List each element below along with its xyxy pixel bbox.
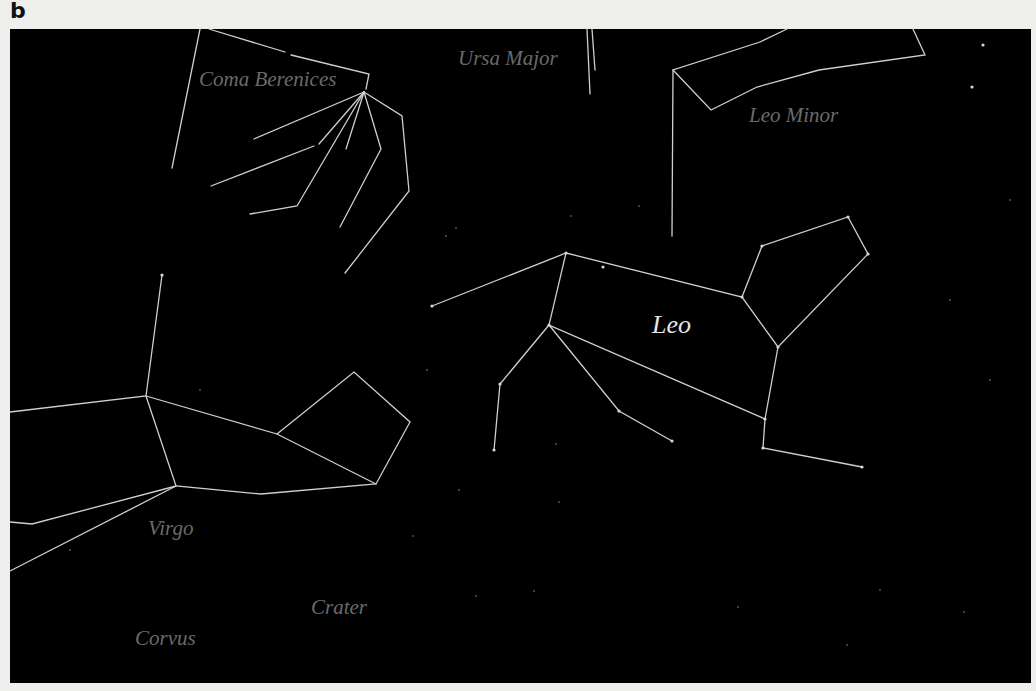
label-crater: Crater bbox=[311, 595, 368, 619]
faint-star bbox=[475, 595, 477, 597]
star bbox=[860, 465, 863, 468]
faint-star bbox=[412, 535, 414, 537]
faint-star bbox=[558, 501, 560, 503]
star bbox=[160, 273, 163, 276]
faint-star bbox=[555, 443, 557, 445]
faint-star bbox=[879, 589, 881, 591]
label-ursa-major: Ursa Major bbox=[458, 46, 559, 70]
faint-star bbox=[570, 215, 572, 217]
star bbox=[761, 446, 764, 449]
star-chart: Leo Leo Minor Ursa Major Coma Berenices … bbox=[0, 0, 1036, 691]
faint-star bbox=[533, 590, 535, 592]
faint-star bbox=[737, 606, 739, 608]
star bbox=[617, 409, 620, 412]
star bbox=[498, 382, 501, 385]
star bbox=[763, 417, 766, 420]
faint-star bbox=[199, 389, 201, 391]
faint-star bbox=[1009, 199, 1011, 201]
label-leo: Leo bbox=[651, 310, 691, 339]
star bbox=[740, 295, 743, 298]
star bbox=[970, 85, 973, 88]
faint-star bbox=[846, 644, 848, 646]
faint-star bbox=[989, 379, 991, 381]
faint-star bbox=[458, 489, 460, 491]
faint-star bbox=[445, 235, 447, 237]
star bbox=[547, 323, 550, 326]
star bbox=[564, 251, 567, 254]
star bbox=[670, 439, 673, 442]
star bbox=[492, 448, 495, 451]
star bbox=[760, 244, 763, 247]
label-corvus: Corvus bbox=[135, 626, 196, 650]
star bbox=[981, 43, 984, 46]
sky-background bbox=[10, 29, 1031, 683]
label-leo-minor: Leo Minor bbox=[748, 103, 839, 127]
star bbox=[430, 304, 433, 307]
faint-star bbox=[69, 549, 71, 551]
faint-star bbox=[963, 611, 965, 613]
faint-star bbox=[455, 227, 457, 229]
faint-star bbox=[949, 299, 951, 301]
star bbox=[776, 345, 779, 348]
star bbox=[866, 252, 869, 255]
star bbox=[601, 265, 604, 268]
label-virgo: Virgo bbox=[148, 516, 194, 540]
faint-star bbox=[426, 369, 428, 371]
faint-star bbox=[638, 205, 640, 207]
star bbox=[846, 215, 849, 218]
label-coma-berenices: Coma Berenices bbox=[199, 67, 336, 91]
